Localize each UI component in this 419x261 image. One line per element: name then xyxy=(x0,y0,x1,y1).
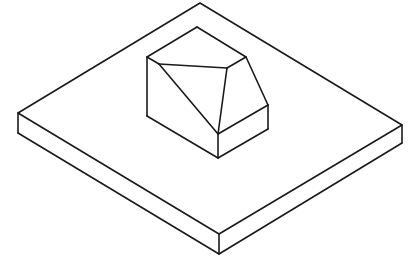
chamfered-block-edge xyxy=(246,57,268,105)
chamfered-block-edge xyxy=(227,57,246,68)
chamfered-block-edge xyxy=(197,27,246,57)
drawing-svg xyxy=(0,0,419,261)
chamfered-block-edge xyxy=(147,57,159,64)
chamfered-block-edge xyxy=(218,129,268,158)
base-plate-top-face xyxy=(18,3,402,234)
chamfered-block-edge xyxy=(159,64,227,68)
chamfered-block-edge xyxy=(218,68,227,134)
base-plate-edge xyxy=(18,133,219,254)
base-plate xyxy=(18,3,402,254)
chamfered-block xyxy=(147,27,268,158)
base-plate-edge xyxy=(219,143,402,254)
isometric-drawing xyxy=(0,0,419,261)
chamfered-block-edge xyxy=(147,27,197,57)
chamfered-block-edge xyxy=(159,64,218,134)
chamfered-block-edge xyxy=(218,105,268,134)
